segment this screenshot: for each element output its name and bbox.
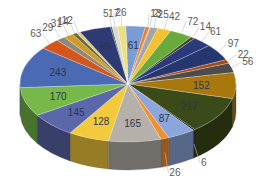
leader-line (42, 34, 49, 44)
data-label: 6 (201, 157, 207, 168)
data-label: 12 (62, 15, 74, 26)
data-label: 63 (30, 28, 42, 39)
leader-line (74, 21, 79, 33)
data-label: 165 (124, 118, 141, 129)
data-label: 42 (169, 11, 181, 22)
data-label: 26 (115, 7, 127, 18)
data-label: 99 (100, 41, 112, 52)
data-label: 243 (50, 67, 67, 78)
data-label: 97 (228, 38, 240, 49)
leader-line (202, 32, 209, 42)
data-label: 217 (181, 101, 198, 112)
leader-line (148, 14, 150, 27)
data-label: 128 (93, 116, 110, 127)
leader-line (227, 55, 236, 62)
data-label: 61 (128, 40, 140, 51)
leader-line (232, 62, 242, 68)
data-label: 152 (193, 80, 210, 91)
data-label: 87 (159, 113, 171, 124)
pie-slice-side (161, 138, 169, 168)
data-label: 72 (187, 16, 199, 27)
leader-line (193, 27, 199, 38)
data-label: 56 (242, 56, 254, 67)
pie-chart: 6113225427214619722561522176872616512814… (0, 0, 260, 192)
leader-line (181, 22, 186, 34)
data-label: 25 (158, 9, 170, 20)
data-label: 26 (169, 167, 181, 178)
data-label: 61 (210, 26, 222, 37)
data-label: 170 (50, 91, 67, 102)
pie-slice-side (193, 130, 195, 159)
leader-line (218, 44, 226, 52)
data-label: 145 (68, 107, 85, 118)
pie-slice-side (108, 139, 161, 170)
leader-line (54, 28, 60, 39)
